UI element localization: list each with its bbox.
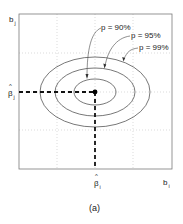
figure-caption: (a)	[89, 203, 100, 213]
estimate-point	[93, 90, 98, 95]
x-estimate-label: β	[94, 179, 99, 188]
arrow-99	[124, 48, 138, 59]
y-estimate-sub: j	[13, 94, 15, 100]
y-axis-label-sub: j	[14, 20, 16, 26]
arrow-95	[105, 36, 130, 66]
x-axis-label: b	[163, 178, 168, 187]
y-axis-label: b	[9, 15, 14, 24]
contour-label-90: p = 90%	[101, 23, 131, 32]
arrow-90	[87, 28, 101, 77]
x-axis-label-sub: i	[169, 183, 170, 189]
y-estimate-label: β	[8, 89, 13, 98]
contour-label-95: p = 95%	[131, 31, 161, 40]
contour-label-99: p = 99%	[139, 43, 169, 52]
estimate-projections	[19, 92, 95, 169]
confidence-ellipse-diagram: p = 90% p = 95% p = 99% b j ^ β j ^ β i …	[0, 0, 183, 224]
x-estimate-sub: i	[100, 184, 101, 190]
